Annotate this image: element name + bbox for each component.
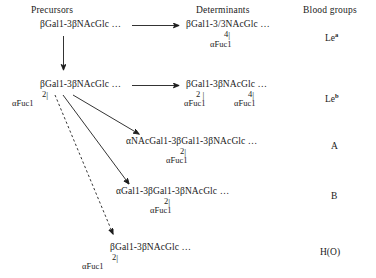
blood-group-label-h: H(O) (320, 245, 340, 257)
precursor-fucosylated-bond-1: 2| (42, 89, 48, 99)
blood-group-biosynthesis-diagram: Precursors Determinants Blood groups βGa… (0, 0, 376, 278)
determinant-a-structure: αNAcGal1-3βGal1-3βNAcGlc … (126, 136, 257, 146)
column-header-blood-groups: Blood groups (303, 5, 357, 15)
precursor-fucosylated-residue-1: αFuc1 (12, 98, 33, 108)
blood-group-name: B (331, 191, 337, 201)
blood-group-superscript: b (335, 92, 339, 99)
blood-group-label-a: A (331, 139, 338, 151)
arrow-precursor2-to-h (55, 95, 113, 234)
blood-group-label-lewis-a: Lea (325, 31, 338, 43)
determinant-lewis-a-structure: βGal1-3/3NAcGlc … (186, 19, 270, 29)
bond-bar: | (116, 253, 118, 263)
determinant-lewis-b-residue-1: αFuc1 (184, 98, 205, 108)
precursor-fucosylated-structure: βGal1-3βNAcGlc … (40, 79, 121, 89)
determinant-a-residue-1: αFuc1 (166, 155, 187, 165)
determinant-h-bond-1: 2| (112, 252, 118, 262)
bond-bar: | (46, 90, 48, 100)
blood-group-name: A (331, 141, 338, 151)
column-header-determinants: Determinants (196, 5, 250, 15)
bond-bar: | (228, 30, 230, 40)
determinant-b-structure: αGal1-3βGal1-3βNAcGlc … (116, 186, 229, 196)
blood-group-name: Le (325, 94, 335, 104)
determinant-lewis-a-bond-1: 4| (224, 29, 230, 39)
determinant-lewis-a-residue-1: αFuc1 (210, 39, 231, 49)
determinant-b-residue-1: αFuc1 (150, 205, 171, 215)
determinant-h-structure: βGal1-3βNAcGlc … (110, 242, 191, 252)
precursor-type1-structure: βGal1-3βNAcGlc … (40, 19, 121, 29)
blood-group-name: H(O) (320, 247, 340, 257)
blood-group-name: Le (325, 33, 335, 43)
blood-group-superscript: a (335, 31, 338, 38)
column-header-precursors: Precursors (31, 5, 73, 15)
determinant-lewis-b-structure: βGal1-3βNAcGlc … (186, 79, 267, 89)
blood-group-label-b: B (331, 189, 337, 201)
blood-group-label-lewis-b: Leb (325, 92, 339, 104)
determinant-lewis-b-residue-2: αFuc1 (234, 98, 255, 108)
arrow-precursor2-to-a (73, 95, 139, 134)
determinant-h-residue-1: αFuc1 (82, 261, 103, 271)
